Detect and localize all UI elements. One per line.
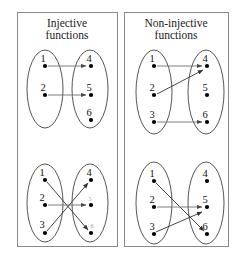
node-label-1: 1: [40, 53, 45, 64]
node-dot-6: [89, 118, 93, 122]
node-dot-5: [89, 203, 93, 207]
node-dot-5: [89, 93, 93, 97]
node-dot-3: [43, 231, 47, 235]
node-label-3: 3: [149, 221, 154, 232]
node-label-4: 4: [86, 53, 92, 64]
node-label-3: 3: [149, 109, 154, 120]
panel-injective: Injective functions 1 2 4 5 6 1: [18, 13, 118, 247]
node-dot-4: [205, 179, 209, 183]
node-dot-1: [152, 179, 156, 183]
node-label-6: 6: [86, 107, 91, 118]
panel-non-injective-title-line2: functions: [155, 29, 198, 41]
node-label-2: 2: [149, 194, 154, 205]
node-label-2: 2: [39, 192, 44, 203]
node-label-2: 2: [149, 82, 154, 93]
panel-injective-frame: [18, 13, 118, 247]
node-dot-3: [152, 120, 156, 124]
node-dot-6: [89, 231, 93, 235]
node-dot-1: [152, 64, 156, 68]
node-label-5: 5: [89, 196, 92, 202]
node-dot-6: [205, 232, 209, 236]
node-label-6: 6: [91, 223, 94, 229]
node-label-2: 2: [40, 82, 45, 93]
node-label-1: 1: [39, 167, 44, 178]
node-label-5: 5: [202, 82, 207, 93]
panel-injective-title-line2: functions: [46, 29, 89, 41]
node-dot-2: [43, 93, 47, 97]
node-dot-2: [43, 203, 47, 207]
node-dot-2: [152, 205, 156, 209]
node-dot-3: [152, 232, 156, 236]
node-dot-5: [205, 93, 209, 97]
node-label-3: 3: [39, 219, 44, 230]
panel-non-injective: Non-injective functions 1 2 3 4 5 6: [125, 13, 229, 247]
node-label-6: 6: [202, 109, 207, 120]
node-dot-1: [43, 178, 47, 182]
node-label-1: 1: [149, 53, 154, 64]
node-label-1: 1: [149, 168, 154, 179]
node-dot-5: [205, 205, 209, 209]
node-dot-2: [152, 93, 156, 97]
function-diagram-figure: Injective functions 1 2 4 5 6 1: [0, 0, 238, 269]
node-label-4: 4: [86, 167, 92, 178]
panel-non-injective-frame: [125, 13, 229, 247]
node-dot-4: [205, 64, 209, 68]
node-label-4: 4: [202, 168, 208, 179]
node-dot-4: [89, 64, 93, 68]
node-label-5: 5: [86, 82, 91, 93]
node-dot-6: [205, 120, 209, 124]
node-dot-1: [43, 64, 47, 68]
node-dot-4: [89, 178, 93, 182]
node-label-5: 5: [202, 194, 207, 205]
node-label-4: 4: [202, 53, 208, 64]
